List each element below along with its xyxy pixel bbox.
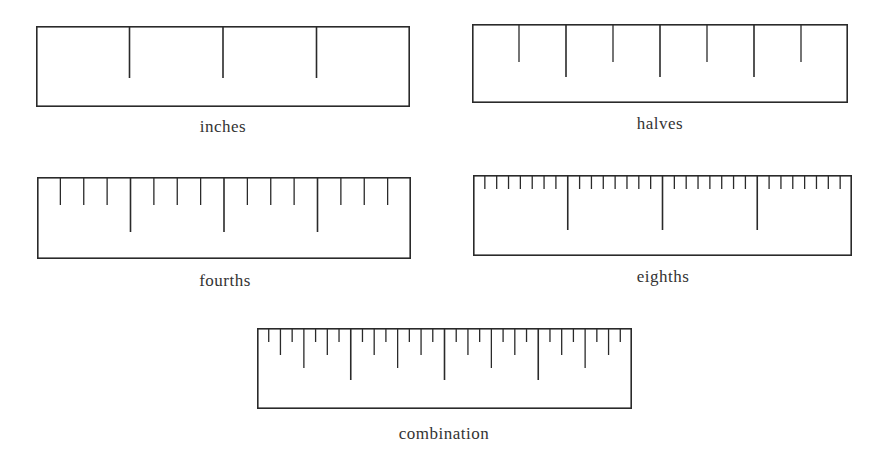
ruler-inches: [36, 26, 410, 107]
combination-ruler-graphic: [257, 328, 632, 409]
ruler-combination: [257, 328, 632, 409]
caption-combination: combination: [344, 424, 544, 444]
inches-ruler-graphic: [36, 26, 410, 107]
halves-ruler-graphic: [472, 24, 848, 103]
caption-halves: halves: [560, 114, 760, 134]
fourths-ruler-graphic: [37, 177, 411, 259]
caption-inches: inches: [123, 117, 323, 137]
ruler-fourths: [37, 177, 411, 259]
caption-eighths: eighths: [563, 267, 763, 287]
caption-fourths: fourths: [125, 271, 325, 291]
eighths-ruler-graphic: [473, 175, 852, 256]
ruler-halves: [472, 24, 848, 103]
ruler-eighths: [473, 175, 852, 256]
